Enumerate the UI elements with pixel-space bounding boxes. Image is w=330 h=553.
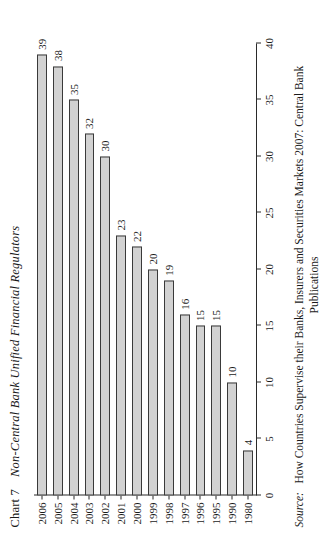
value-tick-label: 5: [263, 436, 275, 442]
value-tick-label: 0: [263, 492, 275, 498]
bar: [69, 100, 79, 496]
chart-number-label: Chart 7: [8, 488, 22, 527]
category-tick: [57, 495, 58, 499]
category-label: 1999: [147, 502, 159, 524]
bar: [180, 314, 190, 495]
bar-row: 199716: [177, 43, 193, 495]
category-label: 2003: [83, 502, 95, 524]
bar-value-label: 30: [99, 140, 111, 151]
category-label: 2001: [115, 502, 127, 524]
category-tick: [200, 495, 201, 499]
bar: [85, 133, 95, 495]
bar-row: 200230: [97, 43, 113, 495]
chart-page: Chart 7Non-Central Bank Unified Financia…: [0, 0, 330, 553]
value-tick-label: 15: [263, 320, 275, 331]
category-tick: [232, 495, 233, 499]
bar-row: 200022: [129, 43, 145, 495]
plot-area: 1980419901019951519961519971619981919992…: [34, 43, 256, 495]
category-tick: [41, 495, 42, 499]
category-tick: [168, 495, 169, 499]
bar-value-label: 35: [68, 84, 80, 95]
category-label: 2004: [68, 502, 80, 524]
category-label: 1996: [194, 502, 206, 524]
category-tick: [121, 495, 122, 499]
bar-row: 19804: [240, 43, 256, 495]
chart-title-text: Non-Central Bank Unified Financial Regul…: [8, 225, 22, 476]
bar-value-label: 15: [194, 310, 206, 321]
category-label: 1998: [163, 502, 175, 524]
bar: [116, 235, 126, 495]
category-tick: [152, 495, 153, 499]
category-label: 1990: [226, 502, 238, 524]
bar-row: 200332: [82, 43, 98, 495]
value-tick: [256, 155, 261, 156]
source-text: How Countries Supervise their Banks, Ins…: [293, 65, 305, 483]
category-label: 2000: [131, 502, 143, 524]
bar: [132, 246, 142, 495]
category-tick: [248, 495, 249, 499]
chart-title: Chart 7Non-Central Bank Unified Financia…: [8, 225, 23, 527]
bar-row: 200123: [113, 43, 129, 495]
bar-value-label: 22: [131, 230, 143, 241]
value-tick: [256, 494, 261, 495]
value-tick-label: 20: [263, 264, 275, 275]
source-label: Source:: [293, 492, 305, 527]
bar: [196, 326, 206, 496]
bar-value-label: 38: [52, 50, 64, 61]
category-tick: [184, 495, 185, 499]
value-tick: [256, 42, 261, 43]
bar: [148, 269, 158, 495]
value-tick-label: 35: [263, 94, 275, 105]
value-tick-label: 30: [263, 151, 275, 162]
value-tick: [256, 325, 261, 326]
category-tick: [137, 495, 138, 499]
value-tick-label: 25: [263, 207, 275, 218]
source-text-line2: Publications: [307, 16, 322, 527]
value-tick: [256, 438, 261, 439]
bar-value-label: 19: [163, 264, 175, 275]
category-label: 1980: [242, 502, 254, 524]
category-label: 2002: [99, 502, 111, 524]
category-label: 2005: [52, 502, 64, 524]
bar-row: 200435: [66, 43, 82, 495]
bar-row: 199920: [145, 43, 161, 495]
value-tick-label: 40: [263, 38, 275, 49]
category-tick: [216, 495, 217, 499]
bar-row: 199010: [224, 43, 240, 495]
category-label: 2006: [36, 502, 48, 524]
bar: [37, 54, 47, 495]
category-tick: [89, 495, 90, 499]
bar: [243, 450, 253, 495]
bar-value-label: 10: [226, 366, 238, 377]
bar-rows: 1980419901019951519961519971619981919992…: [34, 43, 256, 495]
bar-value-label: 15: [210, 310, 222, 321]
bar-row: 199819: [161, 43, 177, 495]
bar-row: 199515: [208, 43, 224, 495]
bar: [227, 382, 237, 495]
bar-value-label: 16: [179, 298, 191, 309]
bar-value-label: 4: [242, 439, 254, 445]
bar: [100, 156, 110, 495]
bar: [164, 280, 174, 495]
value-tick: [256, 212, 261, 213]
bar-value-label: 32: [83, 117, 95, 128]
bar-value-label: 39: [36, 38, 48, 49]
category-tick: [105, 495, 106, 499]
value-axis-ticks: 0510152025303540: [256, 43, 282, 495]
category-label: 1997: [179, 502, 191, 524]
value-tick-label: 10: [263, 377, 275, 388]
bar: [53, 66, 63, 495]
bar-value-label: 23: [115, 219, 127, 230]
source-note: Source: How Countries Supervise their Ba…: [292, 16, 322, 527]
bar-value-label: 20: [147, 253, 159, 264]
category-tick: [73, 495, 74, 499]
bar: [211, 326, 221, 496]
bar-row: 200538: [50, 43, 66, 495]
value-tick: [256, 268, 261, 269]
value-tick: [256, 381, 261, 382]
value-tick: [256, 99, 261, 100]
bar-row: 199615: [193, 43, 209, 495]
category-label: 1995: [210, 502, 222, 524]
bar-row: 200639: [34, 43, 50, 495]
